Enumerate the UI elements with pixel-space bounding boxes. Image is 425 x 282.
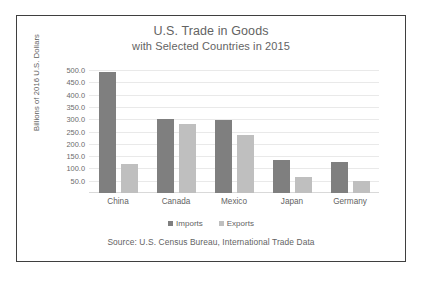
y-axis-tick-label: 450.0 [67,78,86,87]
y-axis-tick-label: 400.0 [67,90,86,99]
y-axis-tick-label: 50.0 [71,176,85,185]
bar-imports-canada[interactable] [157,119,174,193]
y-axis-tick-label: 350.0 [67,102,86,111]
y-axis-tick-label: 300.0 [67,115,86,124]
x-axis-label-china: China [89,197,147,206]
y-axis-tick-label: 500.0 [67,66,86,75]
y-axis-tick-label: 200.0 [67,139,86,148]
y-axis-title: Billions of 2016 U.S. Dollars [32,18,41,148]
legend-label: Exports [227,219,254,228]
x-axis-label-canada: Canada [147,197,205,206]
chart-title-block: U.S. Trade in Goods with Selected Countr… [17,23,405,54]
chart-subtitle: with Selected Countries in 2015 [17,39,405,54]
bar-group [147,70,205,193]
bar-imports-germany[interactable] [331,162,348,193]
bar-exports-canada[interactable] [179,124,196,193]
y-axis-tick-label: 100.0 [67,164,86,173]
legend-label: Imports [176,219,203,228]
bar-group [89,70,147,193]
bar-exports-china[interactable] [121,164,138,193]
bar-group [263,70,321,193]
chart-frame: U.S. Trade in Goods with Selected Countr… [16,15,406,262]
bar-imports-china[interactable] [99,72,116,193]
bar-exports-japan[interactable] [295,177,312,193]
bar-imports-japan[interactable] [273,160,290,193]
legend-swatch-icon [219,221,224,226]
legend-swatch-icon [168,221,173,226]
x-axis-label-germany: Germany [321,197,379,206]
bar-group [321,70,379,193]
y-axis-tick-label: 150.0 [67,152,86,161]
bar-group [205,70,263,193]
bar-exports-germany[interactable] [353,181,370,193]
legend-item-exports[interactable]: Exports [219,219,254,228]
x-axis-label-japan: Japan [263,197,321,206]
bar-imports-mexico[interactable] [215,120,232,193]
bar-exports-mexico[interactable] [237,135,254,193]
plot-area: 500.0450.0400.0350.0300.0250.0200.0150.0… [89,70,379,193]
legend-item-imports[interactable]: Imports [168,219,203,228]
x-axis-label-mexico: Mexico [205,197,263,206]
chart-legend: ImportsExports [17,219,405,228]
y-axis-tick-label: 250.0 [67,127,86,136]
bar-groups [89,70,379,193]
source-note: Source: U.S. Census Bureau, Internationa… [17,237,405,247]
x-axis-labels: ChinaCanadaMexicoJapanGermany [89,197,379,206]
chart-title: U.S. Trade in Goods [17,23,405,39]
